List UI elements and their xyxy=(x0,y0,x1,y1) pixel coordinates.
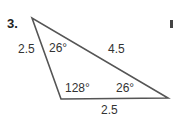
angle-label-top: 26° xyxy=(49,42,67,54)
angle-label-right: 26° xyxy=(116,82,134,94)
figure: 3. 2.5 26° 4.5 128° 26° 2.5 xyxy=(0,0,177,124)
triangle-diagram xyxy=(0,0,177,124)
triangle xyxy=(32,18,168,99)
side-label-hypotenuse: 4.5 xyxy=(108,43,125,55)
side-label-left: 2.5 xyxy=(18,43,35,55)
angle-label-bottom-left: 128° xyxy=(65,82,90,94)
side-label-bottom: 2.5 xyxy=(101,104,118,116)
cropped-next-problem-marker xyxy=(170,20,173,28)
